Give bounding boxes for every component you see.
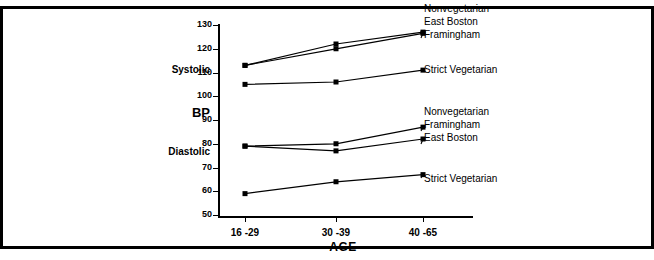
data-point-marker — [243, 144, 248, 149]
legend-systolic: NonvegetarianEast BostonFraminghamStrict… — [424, 2, 489, 41]
legend-diastolic: NonvegetarianFraminghamEast BostonStrict… — [424, 105, 489, 144]
data-point-marker — [334, 141, 339, 146]
legend-item: East Boston — [424, 131, 489, 144]
data-point-marker — [243, 191, 248, 196]
figure-panel: 5060708090100110120130 16 -2930 -3940 -6… — [0, 0, 654, 260]
legend-item: Nonvegetarian — [424, 105, 489, 118]
legend-item: East Boston — [424, 15, 489, 28]
data-point-marker — [334, 46, 339, 51]
legend-item: Nonvegetarian — [424, 2, 489, 15]
diastolic-group-label: Diastolic — [120, 146, 210, 157]
data-point-marker — [243, 63, 248, 68]
data-point-marker — [334, 148, 339, 153]
legend-item: Framingham — [424, 28, 489, 41]
data-point-marker — [334, 80, 339, 85]
legend-item: Strict Vegetarian — [424, 63, 497, 76]
legend-item: Framingham — [424, 118, 489, 131]
data-point-marker — [334, 42, 339, 47]
series-lines-layer — [0, 0, 654, 260]
data-point-marker — [243, 82, 248, 87]
data-point-marker — [334, 179, 339, 184]
chart-plot-area: 5060708090100110120130 16 -2930 -3940 -6… — [0, 0, 654, 260]
bp-axis-label: BP — [120, 107, 210, 118]
x-axis-title: AGE — [288, 240, 398, 254]
legend-item: Strict Vegetarian — [424, 172, 497, 185]
systolic-group-label: Systolic — [120, 64, 210, 75]
